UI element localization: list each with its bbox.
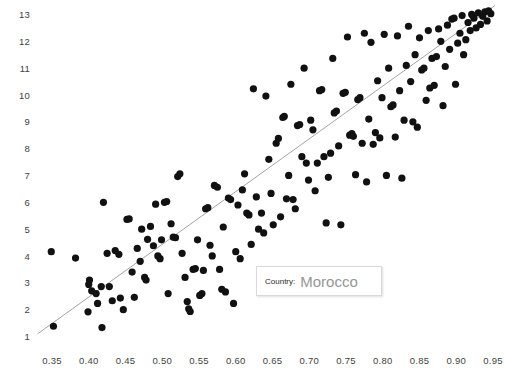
- scatter-point[interactable]: [117, 294, 124, 301]
- scatter-point[interactable]: [150, 242, 157, 249]
- scatter-point[interactable]: [93, 290, 100, 297]
- scatter-point[interactable]: [172, 234, 179, 241]
- scatter-point[interactable]: [131, 294, 138, 301]
- scatter-point[interactable]: [94, 300, 101, 307]
- scatter-point[interactable]: [165, 290, 172, 297]
- scatter-point[interactable]: [109, 297, 116, 304]
- scatter-point[interactable]: [337, 221, 344, 228]
- scatter-point[interactable]: [298, 153, 305, 160]
- scatter-point[interactable]: [222, 288, 229, 295]
- scatter-point[interactable]: [232, 248, 239, 255]
- scatter-point[interactable]: [359, 140, 366, 147]
- scatter-point[interactable]: [320, 153, 327, 160]
- scatter-point[interactable]: [156, 255, 163, 262]
- scatter-point[interactable]: [98, 283, 105, 290]
- scatter-point[interactable]: [309, 126, 316, 133]
- scatter-point[interactable]: [307, 117, 314, 124]
- scatter-point[interactable]: [462, 36, 469, 43]
- scatter-point[interactable]: [442, 63, 449, 70]
- scatter-point[interactable]: [285, 172, 292, 179]
- scatter-point[interactable]: [464, 19, 471, 26]
- scatter-point[interactable]: [250, 85, 257, 92]
- scatter-point[interactable]: [296, 121, 303, 128]
- scatter-point[interactable]: [477, 21, 484, 28]
- scatter-point[interactable]: [275, 135, 282, 142]
- scatter-point[interactable]: [335, 142, 342, 149]
- scatter-point[interactable]: [437, 38, 444, 45]
- scatter-point[interactable]: [258, 209, 265, 216]
- scatter-point[interactable]: [446, 46, 453, 53]
- scatter-point[interactable]: [134, 245, 141, 252]
- scatter-point[interactable]: [301, 65, 308, 72]
- scatter-point[interactable]: [220, 223, 227, 230]
- scatter-point[interactable]: [327, 150, 334, 157]
- scatter-point[interactable]: [385, 65, 392, 72]
- scatter-point[interactable]: [314, 160, 321, 167]
- scatter-point[interactable]: [400, 117, 407, 124]
- scatter-point[interactable]: [147, 223, 154, 230]
- scatter-point[interactable]: [277, 213, 284, 220]
- scatter-point[interactable]: [398, 175, 405, 182]
- scatter-point[interactable]: [356, 94, 363, 101]
- scatter-point[interactable]: [454, 40, 461, 47]
- scatter-point[interactable]: [184, 298, 191, 305]
- scatter-point[interactable]: [137, 258, 144, 265]
- scatter-point[interactable]: [323, 219, 330, 226]
- scatter-point[interactable]: [50, 323, 57, 330]
- scatter-point[interactable]: [206, 242, 213, 249]
- scatter-point[interactable]: [237, 255, 244, 262]
- scatter-point[interactable]: [374, 77, 381, 84]
- scatter-point[interactable]: [289, 196, 296, 203]
- scatter-point[interactable]: [106, 283, 113, 290]
- scatter-point[interactable]: [230, 300, 237, 307]
- scatter-point[interactable]: [265, 156, 272, 163]
- scatter-point[interactable]: [126, 215, 133, 222]
- scatter-point[interactable]: [363, 178, 370, 185]
- scatter-point[interactable]: [192, 265, 199, 272]
- scatter-point[interactable]: [281, 113, 288, 120]
- scatter-point[interactable]: [370, 141, 377, 148]
- scatter-point[interactable]: [214, 184, 221, 191]
- scatter-point[interactable]: [267, 190, 274, 197]
- scatter-point[interactable]: [167, 220, 174, 227]
- scatter-point[interactable]: [392, 133, 399, 140]
- scatter-point[interactable]: [253, 193, 260, 200]
- scatter-point[interactable]: [158, 236, 165, 243]
- scatter-point[interactable]: [352, 171, 359, 178]
- country-tooltip[interactable]: Country: Morocco: [256, 266, 382, 296]
- scatter-point[interactable]: [227, 196, 234, 203]
- scatter-point[interactable]: [416, 34, 423, 41]
- scatter-point[interactable]: [303, 160, 310, 167]
- scatter-point[interactable]: [484, 17, 491, 24]
- scatter-point[interactable]: [452, 81, 459, 88]
- scatter-point[interactable]: [287, 81, 294, 88]
- scatter-point[interactable]: [439, 102, 446, 109]
- scatter-point[interactable]: [329, 55, 336, 62]
- scatter-point[interactable]: [239, 186, 246, 193]
- scatter-point[interactable]: [144, 236, 151, 243]
- scatter-point[interactable]: [142, 277, 149, 284]
- scatter-point[interactable]: [194, 236, 201, 243]
- scatter-point[interactable]: [270, 221, 277, 228]
- scatter-point[interactable]: [72, 255, 79, 262]
- scatter-point[interactable]: [431, 82, 438, 89]
- scatter-point[interactable]: [433, 53, 440, 60]
- scatter-point[interactable]: [450, 15, 457, 22]
- scatter-point[interactable]: [444, 22, 451, 29]
- scatter-point[interactable]: [104, 250, 111, 257]
- scatter-point[interactable]: [318, 86, 325, 93]
- scatter-point[interactable]: [460, 51, 467, 58]
- scatter-point[interactable]: [129, 268, 136, 275]
- scatter-point[interactable]: [120, 306, 127, 313]
- scatter-point[interactable]: [403, 62, 410, 69]
- scatter-point[interactable]: [425, 27, 432, 34]
- scatter-point[interactable]: [487, 10, 494, 17]
- scatter-point[interactable]: [98, 324, 105, 331]
- scatter-point[interactable]: [234, 201, 241, 208]
- scatter-point[interactable]: [305, 176, 312, 183]
- scatter-point[interactable]: [459, 12, 466, 19]
- scatter-point[interactable]: [333, 107, 340, 114]
- scatter-point[interactable]: [376, 134, 383, 141]
- scatter-point[interactable]: [456, 30, 463, 37]
- scatter-point[interactable]: [350, 133, 357, 140]
